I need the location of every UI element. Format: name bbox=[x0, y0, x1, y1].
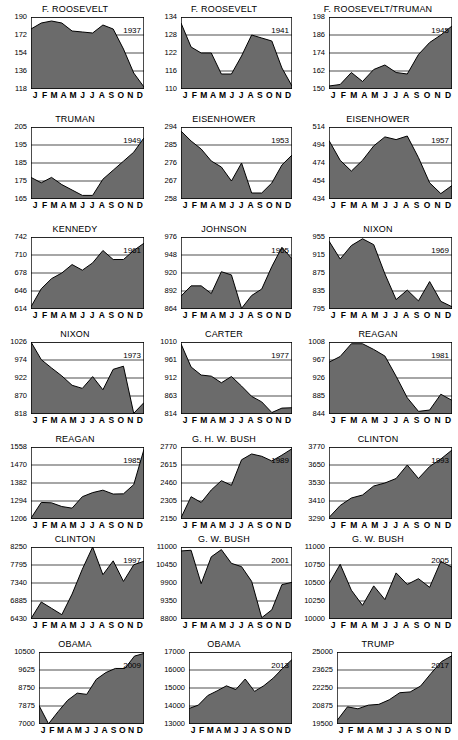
y-axis: 32903410353036503770 bbox=[298, 447, 328, 519]
y-tick-label: 205 bbox=[14, 123, 27, 131]
y-tick-label: 3410 bbox=[308, 497, 325, 505]
plot-box: 1965 bbox=[181, 237, 292, 309]
y-tick-label: 7875 bbox=[18, 702, 35, 710]
x-tick-label: N bbox=[126, 200, 134, 210]
y-tick-label: 15000 bbox=[164, 684, 185, 692]
y-tick-label: 454 bbox=[312, 177, 325, 185]
y-axis: 795835875915955 bbox=[298, 237, 328, 309]
x-tick-label: M bbox=[50, 415, 58, 425]
y-tick-label: 8250 bbox=[10, 543, 27, 551]
x-tick-label: A bbox=[360, 415, 368, 425]
x-tick-label: O bbox=[265, 415, 273, 425]
x-tick-label: O bbox=[117, 200, 125, 210]
x-tick-label: S bbox=[256, 90, 264, 100]
x-tick-label: D bbox=[284, 415, 292, 425]
x-tick-label: M bbox=[69, 200, 77, 210]
x-tick-label: J bbox=[88, 520, 96, 530]
y-tick-label: 19500 bbox=[312, 720, 333, 728]
x-tick-label: J bbox=[329, 310, 337, 320]
year-annotation: 2005 bbox=[431, 556, 449, 565]
x-tick-label: J bbox=[88, 620, 96, 630]
x-tick-label: A bbox=[249, 725, 257, 735]
x-tick-label: J bbox=[228, 620, 236, 630]
x-tick-label: J bbox=[381, 310, 389, 320]
y-axis: 8188709229741026 bbox=[0, 342, 30, 414]
x-tick-label: F bbox=[339, 310, 347, 320]
y-tick-label: 16000 bbox=[164, 666, 185, 674]
x-tick-label: M bbox=[218, 200, 226, 210]
y-tick-label: 2305 bbox=[160, 497, 177, 505]
x-tick-label: S bbox=[256, 415, 264, 425]
y-tick-label: 128 bbox=[164, 31, 177, 39]
x-tick-label: N bbox=[434, 415, 442, 425]
x-tick-label: O bbox=[117, 90, 125, 100]
y-tick-label: 2770 bbox=[160, 443, 177, 451]
y-tick-label: 285 bbox=[164, 141, 177, 149]
plot-area: 1501621741861981945JFMAMJJASOND bbox=[298, 17, 456, 110]
x-tick-label: J bbox=[88, 200, 96, 210]
x-tick-label: D bbox=[136, 415, 144, 425]
y-tick-label: 1026 bbox=[10, 338, 27, 346]
x-tick-label: M bbox=[206, 725, 214, 735]
x-tick-label: J bbox=[392, 310, 400, 320]
x-tick-label: N bbox=[126, 415, 134, 425]
x-tick-label: J bbox=[31, 520, 39, 530]
chart-panel: KENNEDY6146466787107421961JFMAMJJASOND bbox=[0, 220, 150, 325]
year-annotation: 1993 bbox=[431, 456, 449, 465]
x-tick-label: M bbox=[50, 200, 58, 210]
x-tick-label: A bbox=[247, 415, 255, 425]
y-tick-label: 175 bbox=[14, 177, 27, 185]
plot-area: 7000787587509625105002009JFMAMJJASOND bbox=[0, 652, 148, 740]
y-axis: 434454474494514 bbox=[298, 127, 328, 199]
y-tick-label: 7000 bbox=[18, 720, 35, 728]
x-tick-label: J bbox=[31, 90, 39, 100]
x-tick-label: F bbox=[41, 415, 49, 425]
y-axis: 864892920948976 bbox=[150, 237, 180, 309]
x-tick-label: M bbox=[371, 520, 379, 530]
x-tick-label: D bbox=[136, 520, 144, 530]
x-tick-label: A bbox=[402, 620, 410, 630]
x-tick-label: O bbox=[265, 310, 273, 320]
x-tick-label: N bbox=[434, 200, 442, 210]
x-tick-label: A bbox=[247, 620, 255, 630]
x-tick-label: S bbox=[107, 620, 115, 630]
x-tick-label: O bbox=[265, 620, 273, 630]
year-annotation: 1969 bbox=[431, 246, 449, 255]
x-tick-label: F bbox=[339, 415, 347, 425]
x-tick-label: A bbox=[98, 620, 106, 630]
x-tick-label: A bbox=[402, 520, 410, 530]
x-tick-label: O bbox=[265, 520, 273, 530]
chart-panel: TRUMP19500208752225023625250002017JFMAMJ… bbox=[298, 635, 458, 740]
x-tick-label: J bbox=[386, 725, 394, 735]
x-axis: JFMAMJJASOND bbox=[181, 310, 292, 323]
y-tick-label: 961 bbox=[164, 356, 177, 364]
x-tick-label: J bbox=[329, 200, 337, 210]
x-tick-label: M bbox=[50, 620, 58, 630]
chart-panel: EISENHOWER4344544744945141957JFMAMJJASON… bbox=[298, 110, 458, 220]
x-axis: JFMAMJJASOND bbox=[31, 620, 144, 633]
year-annotation: 2001 bbox=[271, 556, 289, 565]
x-tick-label: M bbox=[200, 90, 208, 100]
y-axis: 150162174186198 bbox=[298, 17, 328, 89]
x-tick-label: J bbox=[228, 415, 236, 425]
x-tick-label: D bbox=[444, 310, 452, 320]
x-tick-label: S bbox=[107, 310, 115, 320]
x-tick-label: S bbox=[413, 90, 421, 100]
y-tick-label: 1010 bbox=[160, 338, 177, 346]
x-axis: JFMAMJJASOND bbox=[329, 200, 452, 213]
x-tick-label: A bbox=[402, 415, 410, 425]
x-tick-label: M bbox=[371, 90, 379, 100]
x-tick-label: D bbox=[444, 90, 452, 100]
y-tick-label: 875 bbox=[312, 269, 325, 277]
x-tick-label: J bbox=[381, 620, 389, 630]
y-tick-label: 6885 bbox=[10, 597, 27, 605]
plot-box: 1997 bbox=[31, 547, 144, 619]
x-tick-label: J bbox=[181, 415, 189, 425]
x-axis: JFMAMJJASOND bbox=[31, 90, 144, 103]
x-tick-label: A bbox=[247, 90, 255, 100]
chart-panel: REAGAN120612941382147015581985JFMAMJJASO… bbox=[0, 430, 150, 530]
x-tick-label: D bbox=[284, 620, 292, 630]
plot-area: 4344544744945141957JFMAMJJASOND bbox=[298, 127, 456, 220]
x-tick-label: D bbox=[284, 725, 292, 735]
year-annotation: 1957 bbox=[431, 136, 449, 145]
